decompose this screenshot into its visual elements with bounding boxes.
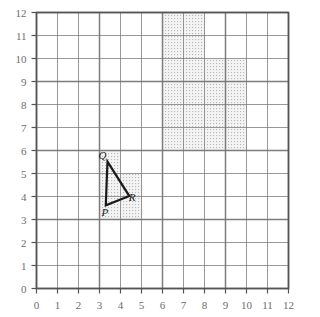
y-axis-tick-label: 0 xyxy=(7,283,27,295)
x-axis-tick-label: 2 xyxy=(69,299,89,311)
x-axis-tick-label: 9 xyxy=(216,299,236,311)
y-axis-tick-label: 4 xyxy=(7,191,27,203)
x-axis-tick-label: 5 xyxy=(132,299,152,311)
y-axis-tick-label: 1 xyxy=(7,260,27,272)
vertex-label-R: R xyxy=(129,192,136,203)
y-axis-tick-label: 10 xyxy=(7,53,27,65)
x-axis-tick-label: 3 xyxy=(90,299,110,311)
y-axis-tick-label: 12 xyxy=(7,7,27,19)
shaded-regions-layer xyxy=(100,13,247,220)
x-axis-tick-label: 10 xyxy=(237,299,257,311)
x-axis-tick-label: 4 xyxy=(111,299,131,311)
x-axis-tick-label: 8 xyxy=(195,299,215,311)
x-axis-tick-label: 12 xyxy=(279,299,299,311)
y-axis-tick-label: 3 xyxy=(7,214,27,226)
y-axis-tick-label: 7 xyxy=(7,122,27,134)
y-axis-tick-label: 9 xyxy=(7,76,27,88)
y-axis-tick-label: 11 xyxy=(7,30,27,42)
x-axis-tick-label: 7 xyxy=(174,299,194,311)
x-axis-tick-label: 0 xyxy=(27,299,47,311)
grid-lines-layer xyxy=(37,13,289,289)
vertex-label-P: P xyxy=(101,207,108,218)
grid-canvas xyxy=(0,0,320,317)
vertex-label-Q: Q xyxy=(98,150,106,161)
x-axis-tick-label: 11 xyxy=(258,299,278,311)
y-axis-tick-label: 2 xyxy=(7,237,27,249)
coordinate-grid-figure: 01234567891011120123456789101112PQR xyxy=(0,0,320,317)
x-axis-tick-label: 6 xyxy=(153,299,173,311)
y-axis-tick-label: 6 xyxy=(7,145,27,157)
y-axis-tick-label: 5 xyxy=(7,168,27,180)
x-axis-tick-label: 1 xyxy=(48,299,68,311)
y-axis-tick-label: 8 xyxy=(7,99,27,111)
axis-ticks-layer xyxy=(32,13,289,294)
